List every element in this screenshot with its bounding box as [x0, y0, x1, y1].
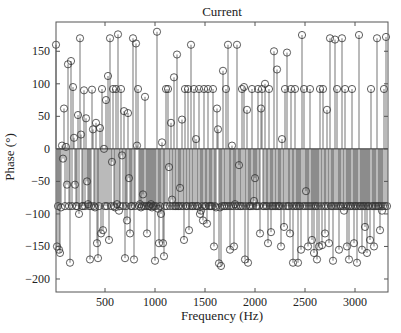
stem — [300, 85, 307, 148]
stem — [383, 149, 390, 210]
stem — [170, 74, 177, 149]
stem — [214, 126, 221, 149]
stem — [189, 149, 196, 210]
stem — [182, 149, 189, 210]
stem — [346, 149, 353, 210]
stem — [258, 85, 265, 148]
stem — [269, 149, 276, 210]
stem — [73, 149, 80, 210]
stem — [272, 149, 279, 210]
stem — [233, 41, 240, 149]
stem — [133, 142, 140, 149]
stem — [262, 149, 269, 210]
stem — [298, 31, 305, 148]
stem — [359, 149, 366, 210]
stem — [349, 149, 356, 210]
stem — [220, 149, 227, 210]
stem — [194, 149, 201, 210]
stem — [239, 149, 246, 210]
stem — [364, 149, 371, 210]
stem — [264, 149, 271, 247]
stem — [178, 116, 185, 149]
stem — [355, 31, 362, 148]
stem — [368, 149, 375, 210]
phase-stem-chart: Current 50010001500200025003000 −200−150… — [0, 0, 401, 333]
stem — [308, 149, 315, 244]
stem — [303, 149, 310, 210]
y-tick-label: −50 — [31, 174, 50, 188]
stem — [213, 105, 220, 149]
stem — [142, 149, 149, 210]
stem — [240, 83, 247, 148]
stem — [350, 149, 357, 247]
stem — [206, 149, 213, 210]
stem — [139, 149, 146, 198]
stem — [107, 149, 114, 210]
stem — [156, 149, 163, 210]
stem-marker-circle-icon — [62, 143, 69, 150]
stem — [155, 149, 162, 247]
stem — [271, 149, 278, 210]
stem — [283, 49, 290, 149]
stem — [63, 149, 70, 188]
x-tick-label: 3000 — [343, 295, 367, 309]
stem — [374, 149, 381, 210]
stem — [279, 149, 286, 210]
plot-area — [52, 28, 390, 269]
stem — [166, 149, 173, 210]
stem — [306, 85, 313, 148]
stem — [176, 149, 183, 192]
stem — [183, 149, 190, 210]
chart-title: Current — [202, 4, 242, 19]
stem — [317, 149, 324, 210]
stem — [356, 149, 363, 210]
stem — [153, 28, 160, 149]
stem — [376, 149, 383, 234]
stem — [134, 85, 141, 148]
stem — [203, 149, 210, 227]
stem — [372, 149, 379, 210]
stem — [369, 149, 376, 210]
stem — [304, 149, 311, 250]
stem — [137, 149, 144, 211]
stem — [205, 149, 212, 210]
stem — [64, 61, 71, 149]
stem — [173, 51, 180, 149]
stem — [238, 85, 245, 148]
stem — [118, 149, 125, 159]
stem — [103, 149, 110, 210]
stem — [339, 149, 346, 210]
stem — [168, 149, 175, 203]
stem — [290, 149, 297, 210]
stem — [90, 149, 97, 210]
stem — [235, 149, 242, 169]
stem — [198, 149, 205, 210]
stem — [161, 149, 168, 210]
stem — [71, 149, 78, 188]
stem — [179, 149, 186, 210]
x-axis-label: Frequency (Hz) — [181, 308, 263, 323]
stem — [278, 136, 285, 149]
stem — [274, 149, 281, 210]
stem — [136, 149, 143, 208]
stem — [124, 109, 131, 148]
stem — [74, 111, 81, 148]
stem — [302, 149, 309, 195]
stem — [284, 149, 291, 210]
stem — [342, 149, 349, 210]
x-tick-label: 1500 — [193, 295, 217, 309]
stem — [184, 85, 191, 148]
stem — [102, 96, 109, 148]
x-tick-label: 500 — [96, 295, 114, 309]
stem — [120, 108, 127, 149]
stem — [375, 149, 382, 210]
stem — [251, 149, 258, 182]
stem — [291, 85, 298, 148]
stem — [341, 85, 348, 148]
stem — [223, 149, 230, 210]
stem — [72, 149, 79, 210]
stem — [332, 149, 339, 210]
stem — [175, 149, 182, 210]
stem — [128, 149, 135, 210]
stem — [330, 149, 337, 210]
